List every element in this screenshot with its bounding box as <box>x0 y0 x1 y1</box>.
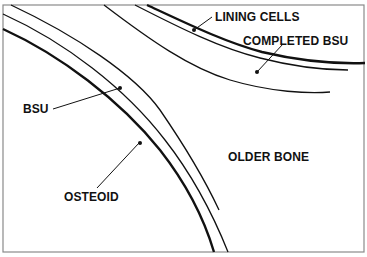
label-older-bone: OLDER BONE <box>228 150 309 164</box>
lining-cells-leader <box>194 17 212 30</box>
completed-bsu-dot <box>255 70 259 74</box>
label-lining-cells: LINING CELLS <box>215 10 300 24</box>
bsu-dot <box>118 86 122 90</box>
label-completed-bsu: COMPLETED BSU <box>243 34 348 48</box>
osteoid-leader <box>97 143 139 188</box>
bone-remodeling-diagram: LINING CELLS COMPLETED BSU BSU OLDER BON… <box>0 0 367 257</box>
osteoid-cement-line <box>3 29 214 252</box>
osteoid-dot <box>138 141 142 145</box>
bsu-surface-line <box>3 14 228 252</box>
lining-cells-dot <box>192 28 196 32</box>
label-osteoid: OSTEOID <box>64 190 119 204</box>
label-bsu: BSU <box>23 102 49 116</box>
